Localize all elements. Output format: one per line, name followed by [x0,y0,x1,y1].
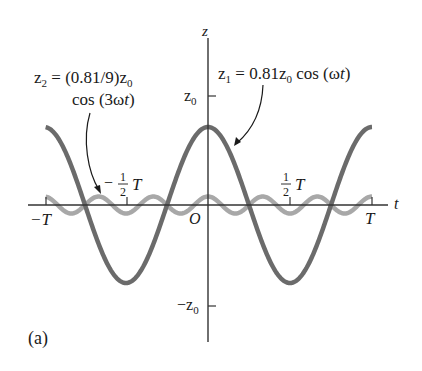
z1-equation: z1 = 0.81z0 cos (ωt) [218,64,350,85]
svg-text:1: 1 [283,170,289,184]
svg-text:T: T [132,175,143,194]
neg-half-T-label: − 1 2 T [104,170,143,199]
pos-half-T-label: 1 2 T [281,170,306,199]
origin-label: O [189,210,201,227]
harmonics-diagram: z t O z0 −z0 −T T − 1 2 T 1 2 T z1 = 0.8… [0,0,422,371]
z0-label: z0 [184,87,197,107]
t-axis-label: t [394,195,399,212]
svg-text:−: − [104,174,113,191]
z1-pointer-arrow [237,85,263,143]
svg-text:T: T [295,175,306,194]
z1-arrowhead [234,137,241,146]
z2-arrowhead [94,185,101,194]
z2-equation-line1: z2 = (0.81/9)z0 [34,68,133,89]
z-axis-label: z [201,23,208,39]
svg-text:2: 2 [283,185,289,199]
panel-label: (a) [28,328,48,349]
neg-T-label: −T [30,210,52,229]
svg-text:1: 1 [120,170,126,184]
z2-equation-line2: cos (3ωt) [72,90,135,109]
svg-text:2: 2 [120,185,126,199]
neg-z0-label: −z0 [177,296,199,316]
z2-pointer-arrow [86,113,99,190]
pos-T-label: T [365,209,376,228]
